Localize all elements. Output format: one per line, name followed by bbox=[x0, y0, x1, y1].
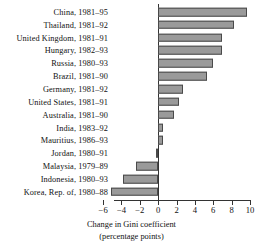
category-label: India, 1983–92 bbox=[56, 123, 108, 132]
chart-row: Hungary, 1982–93 bbox=[0, 44, 263, 57]
chart-row: Mauritius, 1986–93 bbox=[0, 134, 263, 147]
bar bbox=[136, 162, 158, 171]
bar bbox=[158, 20, 234, 29]
category-label: Korea, Rep. of, 1980–88 bbox=[24, 187, 108, 196]
bar bbox=[158, 72, 207, 81]
chart-row: Korea, Rep. of, 1980–88 bbox=[0, 185, 263, 198]
chart-row: United States, 1981–91 bbox=[0, 95, 263, 108]
bar bbox=[111, 188, 158, 197]
category-label: Hungary, 1982–93 bbox=[45, 46, 108, 55]
category-label: China, 1981–95 bbox=[54, 7, 108, 16]
category-label: Thailand, 1981–92 bbox=[44, 20, 108, 29]
chart-row: Thailand, 1981–92 bbox=[0, 18, 263, 31]
chart-row: Brazil, 1981–90 bbox=[0, 70, 263, 83]
gini-change-bar-chart: China, 1981–95Thailand, 1981–92United Ki… bbox=[0, 0, 263, 250]
bar bbox=[158, 136, 163, 145]
category-label: Indonesia, 1980–93 bbox=[41, 174, 108, 183]
chart-row: Australia, 1981–90 bbox=[0, 108, 263, 121]
category-label: Jordan, 1980–91 bbox=[51, 149, 108, 158]
bar bbox=[158, 110, 174, 119]
category-label: United States, 1981–91 bbox=[28, 97, 108, 106]
category-label: Malaysia, 1979–89 bbox=[43, 162, 108, 171]
category-label: Germany, 1981–92 bbox=[43, 85, 108, 94]
x-axis-title-line-1: Change in Gini coefficient bbox=[87, 220, 176, 229]
chart-row: United Kingdom, 1981–91 bbox=[0, 31, 263, 44]
x-axis-title: Change in Gini coefficient (percentage p… bbox=[0, 219, 263, 242]
category-label: Russia, 1980–93 bbox=[51, 59, 108, 68]
category-label: Australia, 1981–90 bbox=[43, 110, 108, 119]
chart-row: India, 1983–92 bbox=[0, 121, 263, 134]
bar bbox=[156, 149, 158, 158]
bar bbox=[158, 46, 221, 55]
chart-row: Germany, 1981–92 bbox=[0, 83, 263, 96]
chart-row: Indonesia, 1980–93 bbox=[0, 173, 263, 186]
x-axis-title-line-2: (percentage points) bbox=[0, 231, 263, 243]
bar bbox=[158, 98, 179, 107]
chart-row: Russia, 1980–93 bbox=[0, 57, 263, 70]
bar bbox=[158, 33, 222, 42]
chart-row: China, 1981–95 bbox=[0, 6, 263, 19]
category-label: United Kingdom, 1981–91 bbox=[17, 33, 109, 42]
x-axis-tick-label: 10 bbox=[238, 205, 262, 216]
chart-row: Malaysia, 1979–89 bbox=[0, 160, 263, 173]
bar bbox=[158, 59, 213, 68]
chart-row: Jordan, 1980–91 bbox=[0, 147, 263, 160]
category-label: Mauritius, 1986–93 bbox=[41, 136, 108, 145]
plot-area: China, 1981–95Thailand, 1981–92United Ki… bbox=[0, 0, 263, 205]
category-label: Brazil, 1981–90 bbox=[53, 72, 108, 81]
bar bbox=[158, 123, 163, 132]
bar bbox=[123, 175, 158, 184]
bar bbox=[158, 8, 247, 17]
x-axis-line bbox=[114, 200, 251, 201]
bar bbox=[158, 85, 183, 94]
